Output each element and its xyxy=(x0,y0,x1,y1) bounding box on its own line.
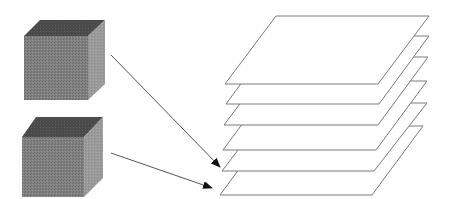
arrows xyxy=(111,55,220,188)
layer-stack-diagram xyxy=(0,0,451,199)
plane-stack xyxy=(220,16,429,195)
arrow-cube1-to-plane5 xyxy=(111,55,220,167)
cube-2-front-face xyxy=(22,137,84,197)
arrow-cube2-to-plane6 xyxy=(111,153,212,188)
cube-2 xyxy=(22,117,103,197)
cube-1 xyxy=(24,20,105,100)
cube-1-front-face xyxy=(24,36,88,100)
